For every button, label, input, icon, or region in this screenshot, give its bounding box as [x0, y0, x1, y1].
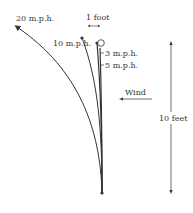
curve-10-mph — [82, 38, 102, 192]
label-20-mph: 20 m.p.h. — [16, 14, 54, 23]
base-point — [100, 191, 103, 194]
label-5-mph: 5 m.p.h. — [105, 61, 138, 70]
label-3-mph: 3 m.p.h. — [105, 49, 138, 58]
endpoint-3-mph — [98, 40, 105, 47]
label-10-feet: 10 feet — [159, 114, 188, 123]
curve-20-mph — [17, 27, 102, 192]
wind-deflection-diagram: 20 m.p.h. 10 m.p.h. 3 m.p.h. 5 m.p.h. 1 … — [0, 0, 193, 213]
label-wind: Wind — [125, 88, 146, 97]
label-10-mph: 10 m.p.h. — [53, 39, 91, 48]
label-1-foot: 1 foot — [86, 13, 110, 22]
